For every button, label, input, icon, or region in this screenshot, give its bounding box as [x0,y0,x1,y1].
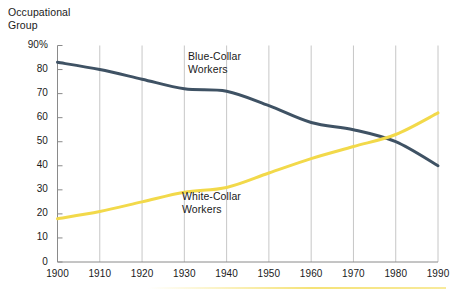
x-tick-label-1900: 1900 [36,268,80,279]
series-lines [58,62,439,218]
y-tick-label-0: 0 [14,256,48,267]
y-tick-label-40: 40 [14,159,48,170]
x-tick-label-1990: 1990 [416,268,457,279]
chart-plot-svg [0,0,457,291]
blue-collar-annotation: Blue-Collar Workers [188,50,241,75]
series-line-blue-collar [58,62,439,165]
y-tick-label-60: 60 [14,111,48,122]
chart-container: Occupational Group 0102030405060708090% … [0,0,457,291]
x-tick-label-1960: 1960 [289,268,333,279]
y-tick-label-90: 90% [14,39,48,50]
axes-group [58,46,439,263]
x-tick-label-1920: 1920 [120,268,164,279]
x-tick-label-1970: 1970 [331,268,375,279]
white-collar-annotation: White-Collar Workers [182,190,241,215]
x-tick-label-1980: 1980 [374,268,418,279]
gridlines-group [100,46,438,263]
x-tick-label-1950: 1950 [247,268,291,279]
y-tick-label-20: 20 [14,207,48,218]
y-tick-label-30: 30 [14,183,48,194]
x-tick-label-1910: 1910 [78,268,122,279]
y-tick-label-50: 50 [14,135,48,146]
y-tick-label-10: 10 [14,231,48,242]
series-line-white-collar [58,113,439,219]
y-tick-label-80: 80 [14,63,48,74]
y-tick-label-70: 70 [14,87,48,98]
x-tick-label-1940: 1940 [205,268,249,279]
x-tick-label-1930: 1930 [162,268,206,279]
bottom-edge-artifact [148,287,446,289]
y-tick-marks [58,70,63,262]
